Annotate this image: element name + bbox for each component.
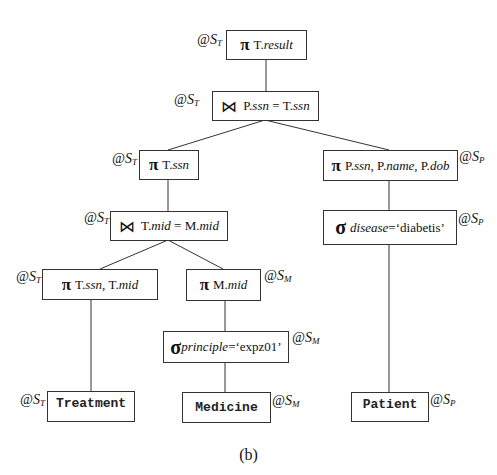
site-label: @ST <box>112 151 137 167</box>
selection-icon: σ <box>335 216 346 239</box>
selection-icon: σ <box>170 336 181 359</box>
site-label: @ST <box>84 210 109 226</box>
edge-joinmid-medproj <box>168 240 223 269</box>
join-icon: ⋈ <box>119 217 135 236</box>
site-label: @ST <box>197 32 222 48</box>
node-join-mid[interactable]: ⋈ T.mid = M.mid <box>110 211 228 241</box>
node-select-principle[interactable]: σ principle=‘expz01’ <box>163 331 289 363</box>
edge-joinmid-treatproj <box>100 240 168 269</box>
node-project-tssn[interactable]: π T.ssn <box>139 150 199 180</box>
node-select-disease[interactable]: σ disease=‘diabetis’ <box>323 210 457 245</box>
site-label: @SP <box>458 211 483 227</box>
node-join-ssn[interactable]: ⋈ P.ssn = T.ssn <box>212 91 319 121</box>
projection-icon: π <box>62 275 71 295</box>
node-project-mmid[interactable]: π M.mid <box>186 269 261 301</box>
figure-caption: (b) <box>0 446 497 464</box>
projection-icon: π <box>149 155 158 175</box>
table-treatment[interactable]: Treatment <box>47 391 135 422</box>
site-label: @SM <box>272 393 299 409</box>
table-patient[interactable]: Patient <box>351 392 429 422</box>
edge-jointop-tssn <box>168 120 265 150</box>
site-label: @SM <box>292 330 319 346</box>
node-project-result[interactable]: π T.result <box>226 30 307 60</box>
site-label: @SM <box>264 268 291 284</box>
table-medicine[interactable]: Medicine <box>182 392 271 423</box>
site-label: @ST <box>16 269 41 285</box>
site-label: @SP <box>459 149 484 165</box>
node-project-patient-attrs[interactable]: π P.ssn, P.name, P.dob <box>323 150 458 181</box>
site-label: @ST <box>20 392 45 408</box>
node-project-treatment-attrs[interactable]: π T.ssn, T.mid <box>42 269 158 300</box>
edge-jointop-patientproj <box>265 120 389 150</box>
projection-icon: π <box>200 275 209 295</box>
projection-icon: π <box>332 156 341 176</box>
projection-icon: π <box>240 35 249 55</box>
site-label: @SP <box>430 392 455 408</box>
site-label: @ST <box>174 92 199 108</box>
join-icon: ⋈ <box>221 97 237 116</box>
